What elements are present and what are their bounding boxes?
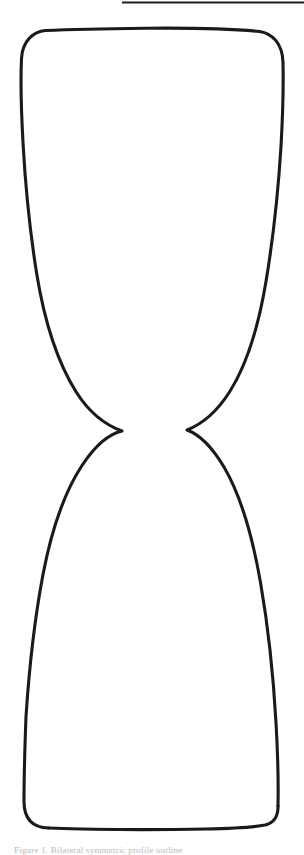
hourglass-left-outline — [21, 31, 122, 829]
hourglass-top-edge — [46, 28, 260, 31]
caption-strip: Figure 1. Bilateral symmetric profile ou… — [0, 845, 304, 855]
page-canvas: Figure 1. Bilateral symmetric profile ou… — [0, 0, 304, 855]
footer-caption: Figure 1. Bilateral symmetric profile ou… — [14, 845, 182, 855]
hourglass-figure — [0, 0, 304, 855]
hourglass-bottom-edge — [49, 806, 279, 830]
hourglass-outline-group — [21, 28, 283, 829]
hourglass-right-outline — [187, 32, 283, 807]
